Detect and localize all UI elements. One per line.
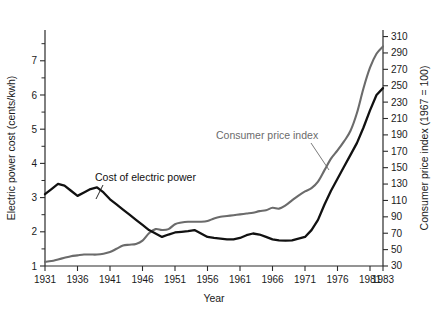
right-axis-tick-label: 230 <box>391 97 408 108</box>
right-axis-tick-label: 130 <box>391 178 408 189</box>
chart-container: 1234567 30507090110130150170190210230250… <box>0 0 438 319</box>
dual-axis-line-chart: 1234567 30507090110130150170190210230250… <box>0 0 438 319</box>
right-axis-tick-label: 30 <box>391 260 403 271</box>
x-axis-title: Year <box>203 292 225 304</box>
right-axis-tick-label: 170 <box>391 146 408 157</box>
x-axis-tick-label: 1976 <box>326 274 349 285</box>
right-axis-tick-label: 90 <box>391 211 403 222</box>
left-axis-tick-label: 5 <box>31 124 37 135</box>
x-axis-tick-label: 1961 <box>229 274 252 285</box>
left-axis-tick-label: 3 <box>31 192 37 203</box>
x-axis-tick-label: 1931 <box>34 274 57 285</box>
left-axis-tick-label: 4 <box>31 158 37 169</box>
cost-annotation-label: Cost of electric power <box>95 171 196 183</box>
cpi-annotation-label: Consumer price index <box>216 129 319 141</box>
right-axis: 3050709011013015017019021023025027029031… <box>383 30 408 271</box>
right-axis-title: Consumer price index (1967 = 100) <box>418 66 430 231</box>
right-axis-tick-label: 70 <box>391 228 403 239</box>
left-axis-title: Electric power cost (cents/kwh) <box>5 76 17 221</box>
right-axis-tick-label: 310 <box>391 31 408 42</box>
right-axis-tick-label: 290 <box>391 47 408 58</box>
right-axis-tick-label: 190 <box>391 129 408 140</box>
right-axis-tick-label: 210 <box>391 113 408 124</box>
x-axis-tick-label: 1956 <box>196 274 219 285</box>
cpi-annotation-leader-line <box>311 143 329 170</box>
right-axis-tick-label: 270 <box>391 64 408 75</box>
chart-annotations: Cost of electric power Consumer price in… <box>95 129 329 199</box>
series-line-consumer-price-index <box>45 46 383 262</box>
right-axis-tick-label: 50 <box>391 244 403 255</box>
x-axis-tick-label: 1936 <box>66 274 89 285</box>
left-axis: 1234567 <box>31 30 45 272</box>
left-axis-tick-label: 6 <box>31 90 37 101</box>
x-axis-tick-label: 1966 <box>261 274 284 285</box>
x-axis-tick-label: 1941 <box>99 274 122 285</box>
x-axis-tick-label: 1946 <box>131 274 154 285</box>
right-axis-tick-label: 150 <box>391 162 408 173</box>
left-axis-tick-label: 1 <box>31 261 37 272</box>
left-axis-tick-label: 7 <box>31 55 37 66</box>
left-axis-tick-label: 2 <box>31 226 37 237</box>
x-axis-tick-label: 1983 <box>372 274 395 285</box>
right-axis-tick-label: 110 <box>391 195 407 206</box>
x-axis: 1931193619411946195119561961196619711976… <box>34 266 395 285</box>
right-axis-tick-label: 250 <box>391 80 408 91</box>
x-axis-tick-label: 1951 <box>164 274 187 285</box>
x-axis-tick-label: 1971 <box>294 274 317 285</box>
